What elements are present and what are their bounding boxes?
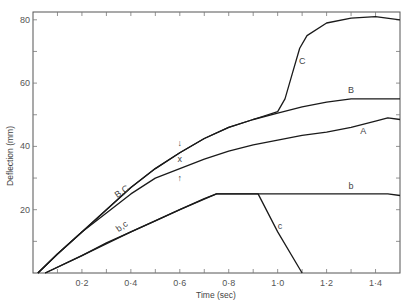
plot-border [33, 12, 400, 273]
curves [38, 17, 400, 273]
annotation-label: b [349, 181, 354, 191]
x-tick-label: 0·6 [173, 278, 186, 288]
x-axis: 0·20·40·60·81·01·21·4 [57, 12, 382, 288]
annotation-label: x [178, 154, 183, 164]
curve-labels: ABCbcB,Cb,cx↓↑ [113, 56, 367, 234]
curve-b [45, 194, 400, 273]
y-axis-title: Deflection (mm) [5, 126, 15, 186]
y-axis: 20406080 [20, 15, 400, 242]
x-tick-label: 1·0 [271, 278, 284, 288]
deflection-time-chart: 0·20·40·60·81·01·21·4 20406080 ABCbcB,Cb… [0, 0, 410, 304]
y-tick-label: 20 [20, 205, 30, 215]
annotation-label: ↑ [178, 173, 183, 183]
annotation-label: B,C [113, 183, 131, 200]
x-tick-label: 1·2 [320, 278, 333, 288]
x-axis-title: Time (sec) [196, 290, 236, 300]
annotation-label: b,c [114, 218, 130, 233]
curve-B [38, 99, 400, 273]
annotation-label: A [360, 126, 366, 136]
x-tick-label: 0·8 [222, 278, 235, 288]
y-tick-label: 40 [20, 141, 30, 151]
curve-c [45, 194, 302, 273]
x-tick-label: 1·4 [369, 278, 382, 288]
annotation-label: c [278, 221, 283, 231]
x-tick-label: 0·2 [75, 278, 88, 288]
y-tick-label: 60 [20, 78, 30, 88]
annotation-label: C [299, 56, 306, 66]
annotation-label: B [348, 85, 354, 95]
x-tick-label: 0·4 [124, 278, 137, 288]
curve-C [38, 17, 400, 273]
plot-frame [33, 12, 400, 273]
annotation-label: ↓ [178, 138, 183, 148]
y-tick-label: 80 [20, 15, 30, 25]
